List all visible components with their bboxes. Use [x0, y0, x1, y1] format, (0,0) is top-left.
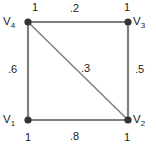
node-label-v1: V1: [3, 114, 15, 126]
node-v4: [24, 18, 31, 25]
node-label-v1-text: V: [3, 113, 11, 125]
node-label-v4-subscript: 4: [11, 21, 15, 30]
node-label-v3-subscript: 3: [141, 21, 145, 30]
edge-weight-v4-v3: .2: [70, 3, 79, 14]
node-v2: [124, 116, 131, 123]
node-label-v2: V2: [133, 114, 145, 126]
edge-weight-v3-v2: .5: [135, 64, 144, 75]
node-label-v2-text: V: [133, 113, 141, 125]
node-value-v4: 1: [32, 2, 38, 13]
edge-v4-v2-diagonal: [28, 22, 128, 120]
node-value-v3: 1: [124, 2, 130, 13]
edge-weight-v4-v1: .6: [8, 64, 17, 75]
node-label-v1-subscript: 1: [11, 119, 15, 128]
node-v3: [124, 18, 131, 25]
edge-weight-v1-v2: .8: [70, 131, 79, 142]
node-label-v4-text: V: [3, 15, 11, 27]
node-label-v3-text: V: [133, 15, 141, 27]
node-value-v1: 1: [25, 132, 31, 143]
node-value-v2: 1: [124, 132, 130, 143]
node-label-v2-subscript: 2: [141, 119, 145, 128]
node-label-v4: V4: [3, 16, 15, 28]
edge-weight-v4-v2: .3: [81, 63, 90, 74]
weighted-graph-figure: V4 V3 V1 V2 1 1 1 1 .2 .6 .5 .8 .3: [0, 0, 156, 150]
node-label-v3: V3: [133, 16, 145, 28]
node-v1: [24, 116, 31, 123]
